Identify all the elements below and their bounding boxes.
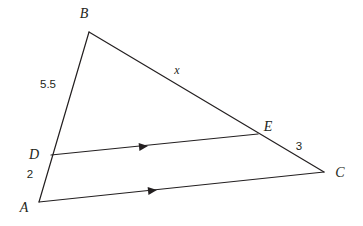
vertex-label-C: C bbox=[335, 165, 345, 180]
geometry-diagram: A B C D E 5.5 2 3 x bbox=[0, 0, 363, 226]
segment-DE bbox=[51, 134, 258, 155]
vertex-label-D: D bbox=[28, 147, 39, 162]
arrow-mark-DE bbox=[139, 142, 149, 151]
vertex-label-B: B bbox=[80, 6, 89, 21]
vertex-label-E: E bbox=[263, 119, 273, 134]
measure-label-bd: 5.5 bbox=[40, 78, 56, 90]
segment-AC bbox=[39, 172, 324, 202]
segment-BC bbox=[89, 32, 324, 172]
arrow-mark-AC bbox=[148, 186, 158, 195]
measure-label-da: 2 bbox=[27, 168, 33, 180]
vertex-label-A: A bbox=[19, 200, 29, 215]
measure-label-be: x bbox=[173, 63, 180, 77]
segment-AB bbox=[39, 32, 89, 202]
measure-label-ec: 3 bbox=[296, 140, 302, 152]
geometry-canvas: A B C D E 5.5 2 3 x bbox=[0, 0, 363, 226]
